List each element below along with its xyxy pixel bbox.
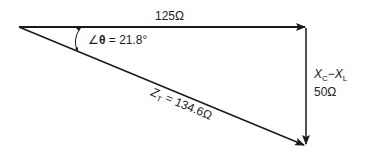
angle-arc-icon [75, 30, 79, 50]
reactance-value: 50Ω [314, 85, 336, 99]
impedance-label: ZT = 134.6Ω [147, 84, 214, 124]
angle-label: ∠θ = 21.8° [88, 33, 148, 47]
resistance-label: 125Ω [155, 9, 184, 23]
reactance-label: XC−XL [313, 67, 348, 83]
impedance-triangle-diagram: 125Ω ∠θ = 21.8° XC−XL 50Ω ZT = 134.6Ω [0, 0, 367, 152]
impedance-vector [19, 27, 304, 145]
